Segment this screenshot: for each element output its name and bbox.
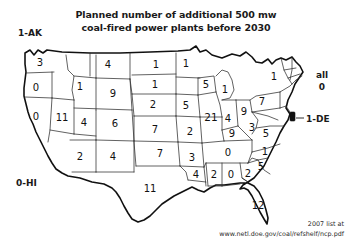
new-england-note-line-1: all (316, 70, 328, 80)
state-value-ga: 2 (245, 168, 251, 179)
state-value-mi: 1 (222, 84, 228, 95)
state-value-fl: 12 (252, 200, 265, 211)
source-line-2: www.netl.doe.gov/coal/refshelf/ncp.pdf (219, 230, 344, 238)
state-value-or: 0 (33, 82, 39, 93)
state-value-pa: 7 (259, 96, 265, 107)
figure-title-line-2: coal-fired power plants before 2030 (82, 22, 271, 33)
source-credit: 2007 list at www.netl.doe.gov/coal/refsh… (219, 220, 344, 238)
us-map-figure: Planned number of additional 500 mw coal… (0, 0, 347, 249)
state-value-tn: 0 (225, 147, 231, 158)
state-value-wv: 3 (249, 122, 255, 133)
new-england-note-line-2: 0 (319, 82, 325, 92)
state-value-nc: 1 (262, 146, 268, 157)
state-value-wa: 3 (37, 57, 43, 68)
state-value-nm: 4 (110, 151, 116, 162)
state-value-il: 21 (204, 111, 217, 123)
state-value-co: 6 (112, 118, 118, 129)
state-value-tx: 11 (144, 183, 157, 194)
state-value-la: 4 (193, 169, 199, 180)
state-value-sc: 5 (258, 161, 264, 172)
state-value-ne: 2 (150, 99, 156, 110)
state-value-ok: 7 (157, 148, 163, 159)
state-value-ca: 0 (33, 111, 39, 122)
state-value-ms: 2 (211, 169, 217, 180)
state-value-az: 2 (77, 151, 83, 162)
state-value-in: 4 (225, 113, 231, 124)
state-value-mt: 4 (105, 59, 111, 70)
state-value-ky: 9 (229, 128, 235, 139)
figure-title-line-1: Planned number of additional 500 mw (76, 9, 277, 20)
state-value-wy: 9 (110, 88, 116, 99)
state-value-mo: 2 (187, 126, 193, 137)
state-value-id: 1 (77, 81, 83, 92)
us-national-outline (24, 46, 303, 224)
state-value-sd: 1 (152, 79, 158, 90)
state-value-ny: 1 (271, 71, 277, 82)
state-value-ut: 4 (81, 117, 87, 128)
state-value-ar: 3 (189, 152, 195, 163)
state-value-oh: 9 (241, 106, 247, 117)
alaska-annotation: 1-AK (18, 28, 43, 38)
state-value-al: 0 (228, 169, 234, 180)
state-value-nd: 1 (153, 59, 159, 70)
state-value-mn: 1 (183, 58, 189, 69)
state-value-wi: 5 (203, 79, 209, 90)
delaware-marker (290, 112, 295, 121)
delaware-annotation: 1-DE (306, 114, 330, 124)
state-value-nv: 11 (56, 112, 69, 123)
state-value-ks: 7 (152, 124, 158, 135)
hawaii-annotation: 0-HI (16, 178, 37, 188)
state-value-va: 5 (263, 128, 269, 139)
state-value-ia: 5 (183, 100, 189, 111)
source-line-1: 2007 list at (308, 220, 345, 228)
